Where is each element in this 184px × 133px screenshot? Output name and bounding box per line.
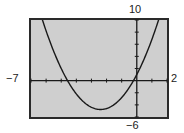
y-max-label: 10	[129, 4, 141, 15]
x-min-label: −7	[6, 73, 19, 84]
graph-window	[0, 0, 184, 133]
x-max-label: 2	[171, 73, 177, 84]
y-min-label: −6	[126, 120, 139, 131]
plot-background	[30, 19, 168, 118]
